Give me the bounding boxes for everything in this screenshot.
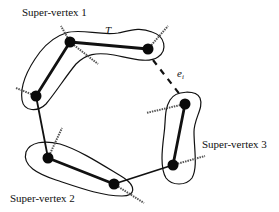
super-vertex-1-outline <box>22 29 164 109</box>
label-super-vertex-3: Super-vertex 3 <box>202 138 267 150</box>
vertex-f <box>180 99 191 110</box>
vertex-e <box>109 179 120 190</box>
edge-g-f <box>173 104 185 165</box>
vertex-d <box>43 153 54 164</box>
vertex-b <box>31 91 42 102</box>
edge-a-c <box>70 42 148 49</box>
vertex-c <box>143 44 154 55</box>
label-super-vertex-2: Super-vertex 2 <box>10 192 75 204</box>
label-tree-t: T <box>105 24 112 36</box>
vertex-a <box>65 37 76 48</box>
super-vertex-diagram: Super-vertex 1 Super-vertex 2 Super-vert… <box>0 0 279 212</box>
label-super-vertex-1: Super-vertex 1 <box>22 6 87 18</box>
vertex-g <box>168 160 179 171</box>
external-edge-stubs <box>16 26 205 203</box>
label-edge-ei: ei <box>177 67 184 81</box>
edge-b-d <box>36 96 48 158</box>
